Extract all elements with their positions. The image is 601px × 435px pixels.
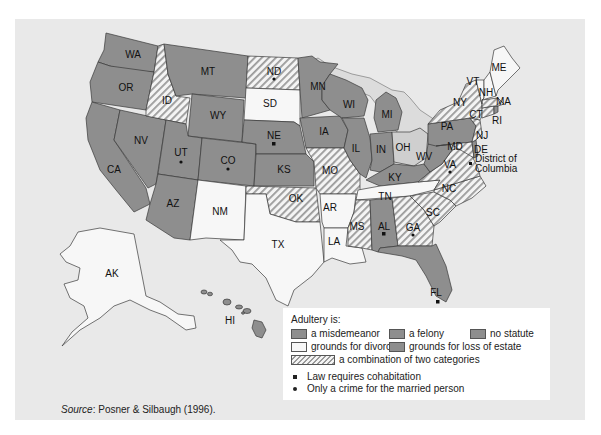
svg-text:IA: IA (319, 126, 329, 137)
legend-item-felony: a felony (389, 328, 444, 339)
svg-text:AR: AR (323, 202, 337, 213)
dot-marker-VA (448, 170, 451, 173)
svg-text:WI: WI (343, 99, 355, 110)
svg-text:CO: CO (221, 155, 236, 166)
svg-text:VT: VT (467, 76, 480, 87)
legend: Adultery is: a misdemeanor a felony no s… (283, 308, 550, 400)
swatch-gray-icon (389, 342, 405, 352)
svg-text:MT: MT (201, 66, 215, 77)
svg-text:MN: MN (310, 81, 326, 92)
swatch-gray-icon (291, 329, 307, 339)
legend-item-no-statute: no statute (470, 328, 534, 339)
svg-text:UT: UT (174, 147, 187, 158)
svg-text:NM: NM (212, 206, 228, 217)
state-RI[interactable] (494, 106, 498, 114)
svg-text:SC: SC (426, 207, 440, 218)
svg-text:WY: WY (210, 110, 226, 121)
svg-text:IL: IL (352, 143, 361, 154)
svg-text:NY: NY (453, 97, 467, 108)
square-marker-AL (382, 232, 386, 236)
svg-text:OH: OH (396, 142, 411, 153)
swatch-white-icon (291, 342, 307, 352)
svg-text:NV: NV (134, 135, 148, 146)
svg-text:NE: NE (267, 130, 281, 141)
square-marker-NE (272, 142, 276, 146)
svg-text:KS: KS (277, 164, 291, 175)
svg-text:TX: TX (272, 239, 285, 250)
svg-text:ME: ME (492, 62, 507, 73)
svg-text:PA: PA (441, 121, 454, 132)
dc-marker (469, 162, 472, 165)
dot-marker-CO (226, 167, 229, 170)
svg-text:OR: OR (119, 82, 134, 93)
legend-marker-married: Only a crime for the married person (291, 383, 464, 394)
svg-text:AZ: AZ (167, 198, 180, 209)
square-marker-FL (436, 300, 440, 304)
legend-marker-cohabitation: Law requires cohabitation (291, 371, 421, 382)
svg-text:OK: OK (289, 193, 304, 204)
svg-text:MS: MS (350, 221, 365, 232)
svg-text:IN: IN (376, 144, 386, 155)
legend-item-divorce: grounds for divorce (291, 341, 397, 352)
dot-marker-icon (293, 387, 297, 391)
swatch-gray-icon (470, 329, 486, 339)
legend-title: Adultery is: (291, 314, 340, 325)
svg-text:TN: TN (378, 191, 391, 202)
dot-marker-ND (272, 77, 275, 80)
svg-text:MO: MO (322, 165, 338, 176)
dot-marker-GA (411, 233, 414, 236)
svg-text:SD: SD (263, 98, 277, 109)
svg-text:MI: MI (381, 109, 392, 120)
legend-item-combination: a combination of two categories (291, 354, 480, 365)
svg-text:NC: NC (442, 183, 456, 194)
svg-text:WA: WA (125, 49, 141, 60)
svg-text:ND: ND (267, 66, 281, 77)
dc-label-line2: Columbia (475, 163, 518, 174)
svg-text:ID: ID (162, 95, 172, 106)
square-marker-icon (293, 375, 297, 379)
swatch-hatch-icon (291, 355, 335, 365)
svg-text:MA: MA (496, 96, 511, 107)
svg-text:GA: GA (406, 222, 421, 233)
svg-text:AL: AL (378, 221, 391, 232)
legend-item-loss-of-estate: grounds for loss of estate (389, 341, 521, 352)
svg-text:CT: CT (469, 109, 482, 120)
swatch-gray-icon (389, 329, 405, 339)
svg-text:CA: CA (107, 164, 121, 175)
svg-text:FL: FL (430, 287, 442, 298)
dot-marker-UT (179, 160, 182, 163)
state-AK[interactable] (60, 228, 196, 346)
svg-text:HI: HI (225, 315, 235, 326)
svg-text:NH: NH (479, 87, 493, 98)
svg-text:LA: LA (328, 236, 341, 247)
source-citation: Source: Posner & Silbaugh (1996). (61, 404, 216, 415)
svg-text:WV: WV (416, 151, 432, 162)
svg-text:VA: VA (444, 159, 457, 170)
svg-text:AK: AK (105, 268, 119, 279)
svg-text:MD: MD (447, 141, 463, 152)
svg-text:NJ: NJ (476, 130, 488, 141)
svg-text:KY: KY (388, 172, 402, 183)
svg-text:RI: RI (492, 115, 502, 126)
legend-item-misdemeanor: a misdemeanor (291, 328, 380, 339)
